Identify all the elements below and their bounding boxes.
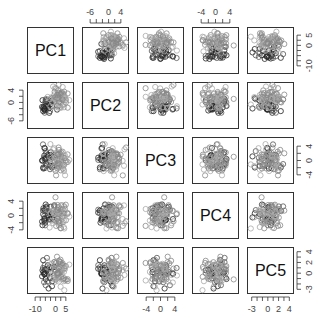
variable-label: PC4 [200,207,231,224]
tick-label: 0 [158,304,163,314]
top-axis-pc4: -404 [197,7,232,23]
variable-label: PC3 [145,152,176,169]
variable-label: PC2 [90,97,121,114]
scatter-panel-pc4-vs-pc3 [138,193,184,239]
diagonal-panel-pc1: PC1 [28,28,74,74]
scatter-panel-pc4-vs-pc2 [83,193,129,239]
tick-label: -4 [304,171,314,179]
tick-label: 4 [304,249,314,254]
tick-label: -10 [304,59,314,72]
tick-label: 4 [227,7,232,17]
tick-label: 0 [106,7,111,17]
scatter-panel-pc1-vs-pc5 [248,28,294,74]
tick-label: 2 [276,304,281,314]
left-axis-pc2: -604 [6,88,23,125]
tick-label: 4 [304,144,314,149]
top-axis-pc2: -604 [86,7,123,23]
tick-label: 5 [63,304,68,314]
tick-label: -4 [142,304,150,314]
bottom-axis-pc3: -404 [142,297,177,314]
bottom-axis-pc1: -1005 [29,297,69,314]
tick-label: 0 [304,158,314,163]
tick-label: 4 [172,304,177,314]
tick-label: 4 [118,7,123,17]
tick-label: 0 [265,304,270,314]
scatter-panel-pc5-vs-pc1 [28,248,74,294]
tick-label: -4 [6,226,16,234]
tick-label: 5 [304,33,314,38]
right-axis-pc5: -3024 [297,249,314,293]
right-axis-pc3: -404 [297,144,314,179]
tick-label: 0 [213,7,218,17]
tick-label: 0 [6,213,16,218]
right-axis-pc1: -1005 [297,33,314,73]
diagonal-panel-pc4: PC4 [193,193,239,239]
scatter-panel-pc5-vs-pc3 [138,248,184,294]
tick-label: 2 [304,260,314,265]
tick-label: 4 [287,304,292,314]
tick-label: 0 [304,43,314,48]
bottom-axis-pc5: -3024 [248,297,292,314]
scatter-panel-pc2-vs-pc1 [28,82,74,128]
tick-label: 4 [6,199,16,204]
scatter-panel-pc1-vs-pc4 [193,28,239,74]
tick-label: 0 [304,271,314,276]
scatter-panel-pc4-vs-pc1 [28,193,74,239]
scatter-panel-pc1-vs-pc2 [83,28,129,74]
tick-label: -6 [86,7,94,17]
tick-label: -10 [29,304,42,314]
left-axis-pc4: -404 [6,199,23,234]
variable-label: PC1 [35,42,66,59]
scatter-panel-pc3-vs-pc4 [193,138,239,184]
scatter-panel-pc2-vs-pc5 [248,82,294,128]
scatter-panel-pc2-vs-pc3 [138,82,184,128]
scatter-panel-pc3-vs-pc2 [83,138,129,184]
diagonal-panel-pc2: PC2 [83,83,129,129]
variable-label: PC5 [255,262,286,279]
scatter-panel-pc2-vs-pc4 [193,82,239,128]
scatter-panel-pc4-vs-pc5 [248,193,294,239]
tick-label: -6 [6,117,16,125]
tick-label: 0 [6,100,16,105]
scatter-panel-pc3-vs-pc5 [248,138,294,184]
scatter-panel-pc1-vs-pc3 [138,28,184,74]
scatter-panel-pc3-vs-pc1 [28,138,74,184]
tick-label: 0 [53,304,58,314]
diagonal-panel-pc5: PC5 [248,248,294,294]
tick-label: -3 [248,304,256,314]
diagonal-panel-pc3: PC3 [138,138,184,184]
tick-label: 4 [6,88,16,93]
pairs-plot: PC1PC2PC3PC4PC5-604-404-1005-404-3024-60… [0,0,320,321]
tick-label: -3 [304,285,314,293]
scatter-panel-pc5-vs-pc2 [83,248,129,294]
scatter-panel-pc5-vs-pc4 [193,248,239,294]
tick-label: -4 [197,7,205,17]
